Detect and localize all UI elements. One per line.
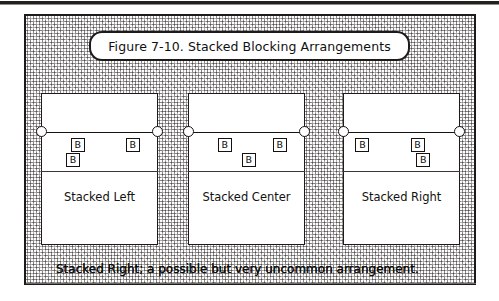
panel-label-1: Stacked Center bbox=[189, 190, 304, 204]
blocker-marker: B bbox=[66, 153, 80, 167]
blocker-marker: B bbox=[242, 153, 256, 167]
attack-line bbox=[188, 171, 305, 172]
blocker-marker: B bbox=[355, 138, 369, 152]
net-line bbox=[41, 132, 158, 133]
blocker-marker: B bbox=[411, 138, 425, 152]
blocker-marker: B bbox=[416, 153, 430, 167]
net-post-right-icon bbox=[299, 126, 310, 137]
page-top-rule bbox=[0, 1, 499, 4]
caption-underline bbox=[26, 283, 476, 284]
attack-line bbox=[41, 171, 158, 172]
figure-caption-strip: Stacked Right; a possible but very uncom… bbox=[26, 258, 474, 280]
net-line bbox=[188, 132, 305, 133]
court-panel-2: BBBStacked Right bbox=[343, 93, 460, 245]
blocker-marker: B bbox=[273, 138, 287, 152]
blocker-marker: B bbox=[218, 138, 232, 152]
court-panel-1: BBBStacked Center bbox=[188, 93, 305, 245]
attack-line bbox=[343, 171, 460, 172]
panel-label-2: Stacked Right bbox=[344, 190, 459, 204]
panel-label-0: Stacked Left bbox=[42, 190, 157, 204]
net-post-left-icon bbox=[338, 126, 349, 137]
blocker-marker: B bbox=[71, 138, 85, 152]
net-post-left-icon bbox=[36, 126, 47, 137]
net-post-right-icon bbox=[152, 126, 163, 137]
figure-title: Figure 7-10. Stacked Blocking Arrangemen… bbox=[108, 39, 391, 54]
court-panel-0: BBBStacked Left bbox=[41, 93, 158, 245]
net-post-left-icon bbox=[183, 126, 194, 137]
figure-title-banner: Figure 7-10. Stacked Blocking Arrangemen… bbox=[89, 31, 410, 61]
blocker-marker: B bbox=[126, 138, 140, 152]
net-line bbox=[343, 132, 460, 133]
net-post-right-icon bbox=[454, 126, 465, 137]
figure-caption: Stacked Right; a possible but very uncom… bbox=[56, 262, 419, 276]
